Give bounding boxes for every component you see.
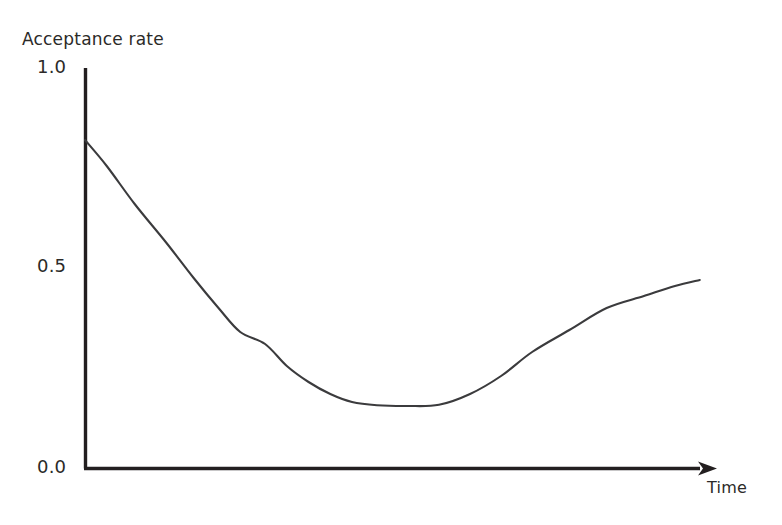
chart-container: Acceptance rate 1.0 0.5 0.0 Time	[0, 0, 782, 525]
y-axis-tick-label-0: 0.0	[37, 456, 66, 477]
chart-background	[0, 0, 782, 525]
x-axis-title: Time	[707, 478, 747, 497]
line-chart-canvas	[0, 0, 782, 525]
y-axis-title: Acceptance rate	[22, 29, 164, 49]
y-axis-tick-label-0point5: 0.5	[37, 255, 66, 276]
y-axis-tick-label-1: 1.0	[37, 56, 66, 77]
